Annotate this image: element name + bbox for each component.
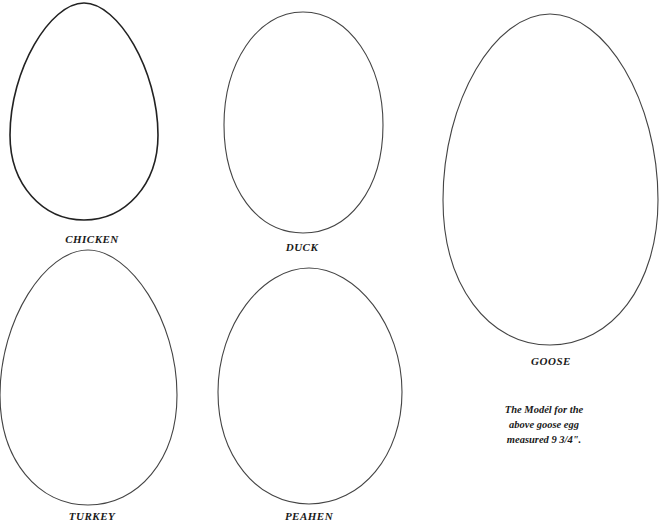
goose-label: GOOSE bbox=[531, 355, 571, 367]
turkey-egg-outline bbox=[0, 250, 177, 505]
note-line-3: measured 9 3/4". bbox=[505, 432, 583, 447]
note-line-2: above goose egg bbox=[505, 417, 583, 432]
chicken-egg-outline bbox=[10, 3, 158, 220]
duck-label: DUCK bbox=[286, 241, 319, 253]
goose-size-note: The Modél for the above goose egg measur… bbox=[505, 402, 583, 447]
note-line-1: The Modél for the bbox=[505, 402, 583, 417]
chicken-label: CHICKEN bbox=[65, 233, 119, 245]
goose-egg-outline bbox=[443, 14, 658, 345]
peahen-label: PEAHEN bbox=[285, 510, 333, 522]
peahen-egg-outline bbox=[218, 268, 402, 504]
egg-outlines bbox=[0, 0, 659, 528]
turkey-label: TURKEY bbox=[69, 510, 115, 522]
duck-egg-outline bbox=[224, 12, 383, 233]
